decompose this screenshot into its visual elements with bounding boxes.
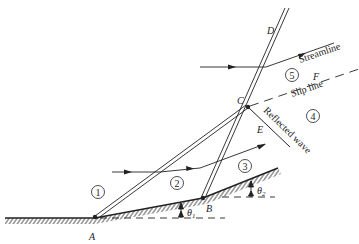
point-A-marker [93, 215, 97, 219]
label-reflected-wave: Reflected wave [262, 105, 315, 156]
label-streamline: Streamline [297, 40, 342, 65]
region-1: 1 [92, 186, 105, 199]
svg-text:3: 3 [243, 161, 248, 172]
label-theta2: θ2 [257, 185, 266, 198]
label-C: C [237, 95, 244, 106]
wall [5, 168, 281, 224]
label-B: B [206, 203, 212, 214]
region-2: 2 [171, 177, 184, 190]
label-A: A [88, 231, 96, 242]
label-D: D [266, 25, 275, 36]
region-3: 3 [239, 160, 252, 173]
point-B-marker [201, 196, 205, 200]
svg-text:2: 2 [175, 178, 180, 189]
region-4: 4 [307, 110, 320, 123]
shock-intersection-diagram: A B C D E F θ1 θ2 Streamline Slip line R… [0, 0, 359, 244]
svg-text:4: 4 [311, 111, 316, 122]
svg-text:5: 5 [290, 70, 295, 81]
label-E: E [256, 124, 263, 135]
shock-AC [95, 105, 248, 219]
region-5: 5 [286, 69, 299, 82]
svg-text:1: 1 [96, 187, 101, 198]
